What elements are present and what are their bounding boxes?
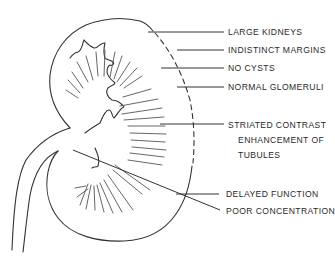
striations <box>66 50 166 213</box>
label-poor-concentration: POOR CONCENTRATION <box>226 206 335 216</box>
label-indistinct-margins: INDISTINCT MARGINS <box>228 45 326 55</box>
leader-lines <box>73 32 224 210</box>
label-striated-contrast: STRIATED CONTRAST <box>228 120 326 130</box>
renal-pelvis <box>70 40 124 133</box>
label-tubules: TUBULES <box>238 150 280 160</box>
label-large-kidneys: LARGE KIDNEYS <box>228 27 302 37</box>
ureter-inner <box>23 151 58 252</box>
label-no-cysts: NO CYSTS <box>228 63 275 73</box>
indistinct-margin-dashed <box>155 33 194 163</box>
label-delayed-function: DELAYED FUNCTION <box>226 189 319 199</box>
label-normal-glomeruli: NORMAL GLOMERULI <box>228 82 324 92</box>
kidney-outline-lower <box>47 151 192 241</box>
label-enhancement-of: ENHANCEMENT OF <box>238 135 324 145</box>
ureter-outer <box>12 128 70 250</box>
